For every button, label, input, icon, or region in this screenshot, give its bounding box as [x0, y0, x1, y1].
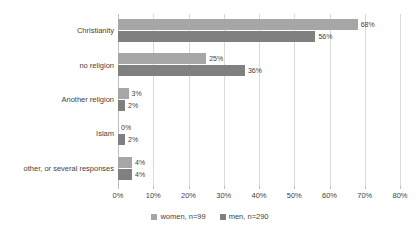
x-tick-label: 70% — [357, 191, 372, 200]
x-tick-label: 80% — [392, 191, 407, 200]
bar-item: 4% — [118, 157, 145, 168]
bar-group: 4%4% — [118, 152, 400, 186]
legend-label: women, n=99 — [160, 212, 205, 221]
bar-group: 68%56% — [118, 14, 400, 48]
bar-value-label: 0% — [121, 122, 131, 133]
x-tick-mark — [153, 186, 154, 189]
y-axis-label: no religion — [2, 61, 114, 70]
bar-group: 3%2% — [118, 83, 400, 117]
x-tick-label: 30% — [216, 191, 231, 200]
bar — [118, 100, 125, 111]
bar-chart: Christianityno religionAnother religionI… — [0, 0, 420, 237]
bar-item: 2% — [118, 100, 138, 111]
bar-item: 3% — [118, 88, 142, 99]
legend-swatch-icon — [220, 214, 226, 220]
legend-item[interactable]: women, n=99 — [151, 212, 205, 221]
bar-value-label: 36% — [248, 65, 262, 76]
x-tick-mark — [330, 186, 331, 189]
bar — [118, 157, 132, 168]
bar-value-label: 2% — [128, 134, 138, 145]
bar-group: 25%36% — [118, 48, 400, 82]
bar — [118, 53, 206, 64]
x-tick-label: 0% — [113, 191, 124, 200]
y-axis-label: Christianity — [2, 26, 114, 35]
legend-label: men, n=290 — [229, 212, 269, 221]
bar-item: 56% — [118, 31, 332, 42]
bar-value-label: 25% — [209, 53, 223, 64]
bar — [118, 19, 358, 30]
bar-item: 2% — [118, 134, 138, 145]
bar-value-label: 3% — [132, 88, 142, 99]
x-tick-label: 10% — [146, 191, 161, 200]
bar — [118, 88, 129, 99]
x-tick-label: 20% — [181, 191, 196, 200]
bar-item: 36% — [118, 65, 262, 76]
legend-item[interactable]: men, n=290 — [220, 212, 269, 221]
bar-value-label: 56% — [318, 31, 332, 42]
x-tick-mark — [294, 186, 295, 189]
x-tick-mark — [189, 186, 190, 189]
x-tick-mark — [224, 186, 225, 189]
bar — [118, 31, 315, 42]
bar — [118, 65, 245, 76]
gridline — [400, 14, 401, 186]
plot-area: 68%56%25%36%3%2%0%2%4%4% — [118, 14, 400, 186]
bar — [118, 169, 132, 180]
bar — [118, 134, 125, 145]
y-axis-category-labels: Christianityno religionAnother religionI… — [0, 14, 114, 186]
y-axis-label: Another religion — [2, 95, 114, 104]
bar-value-label: 68% — [361, 19, 375, 30]
bar-value-label: 4% — [135, 157, 145, 168]
y-axis-label: other, or several responses — [2, 164, 114, 173]
x-tick-label: 40% — [251, 191, 266, 200]
x-tick-mark — [259, 186, 260, 189]
x-tick-label: 50% — [287, 191, 302, 200]
legend-swatch-icon — [151, 214, 157, 220]
x-tick-mark — [365, 186, 366, 189]
bar-value-label: 2% — [128, 100, 138, 111]
x-axis: 0%10%20%30%40%50%60%70%80% — [118, 186, 400, 202]
bar-item: 25% — [118, 53, 223, 64]
bar-value-label: 4% — [135, 169, 145, 180]
x-tick-mark — [118, 186, 119, 189]
bar-group: 0%2% — [118, 117, 400, 151]
bar-item: 4% — [118, 169, 145, 180]
chart-legend: women, n=99men, n=290 — [0, 212, 420, 221]
bar-item: 68% — [118, 19, 375, 30]
bar-item: 0% — [118, 122, 131, 133]
x-tick-label: 60% — [322, 191, 337, 200]
x-tick-mark — [400, 186, 401, 189]
y-axis-label: Islam — [2, 129, 114, 138]
